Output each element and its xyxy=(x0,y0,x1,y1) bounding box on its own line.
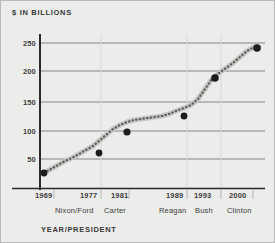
president-label-nixon-ford: Nixon/Ford xyxy=(55,206,94,215)
chart-figure: $ IN BILLIONS xyxy=(0,0,275,243)
x-axis-title: YEAR/PRESIDENT xyxy=(41,225,117,234)
x-tick-label-1993: 1993 xyxy=(194,191,212,200)
president-label-carter: Carter xyxy=(104,206,126,215)
gridlines xyxy=(40,43,265,159)
period-separators xyxy=(101,34,221,188)
data-series-line xyxy=(44,47,259,173)
y-tick-label-50: 50 xyxy=(12,155,36,164)
x-tick-label-1969: 1969 xyxy=(35,191,53,200)
y-tick-label-150: 150 xyxy=(12,98,36,107)
president-label-bush: Bush xyxy=(195,206,213,215)
y-tick-label-200: 200 xyxy=(12,67,36,76)
y-tick-label-100: 100 xyxy=(12,127,36,136)
x-tick-label-1981: 1981 xyxy=(111,191,129,200)
president-label-clinton: Clinton xyxy=(227,206,252,215)
president-label-reagan: Reagan xyxy=(159,206,186,215)
x-tick-label-1977: 1977 xyxy=(80,191,98,200)
y-tick-label-250: 250 xyxy=(12,39,36,48)
x-tick-label-1989: 1989 xyxy=(166,191,184,200)
x-tick-label-2000: 2000 xyxy=(229,191,247,200)
